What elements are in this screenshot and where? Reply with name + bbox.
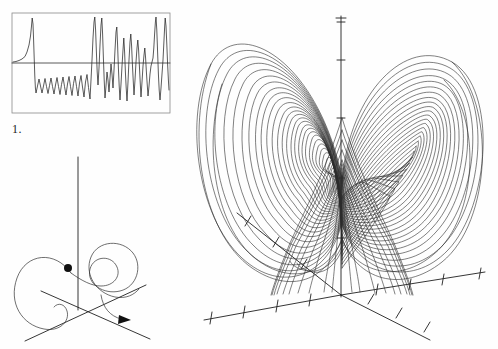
lorenz-attractor-svg <box>190 0 498 349</box>
axis-left-depth <box>25 285 146 341</box>
three-d-trajectory-svg <box>0 145 190 349</box>
start-point-dot <box>64 264 72 272</box>
right-wing-orbits <box>342 56 483 272</box>
left-wing-orbits <box>197 44 342 277</box>
panel-time-series: 1. <box>0 0 190 145</box>
axis-right-depth <box>41 291 150 339</box>
panel-lorenz-attractor: 3. <box>190 0 498 349</box>
flow-arrow-head <box>118 315 131 324</box>
axis-right <box>341 272 485 295</box>
time-series-svg <box>0 0 190 145</box>
axis-depth-front <box>341 295 430 340</box>
flow-arrow-tail <box>101 295 121 319</box>
axis-left <box>204 295 341 320</box>
panel-three-d-trajectory: 2. <box>0 145 190 349</box>
caption-panel-1: 1. <box>12 122 22 137</box>
series-x-of-t <box>13 17 169 101</box>
figure-canvas: 1. 2. <box>0 0 498 349</box>
